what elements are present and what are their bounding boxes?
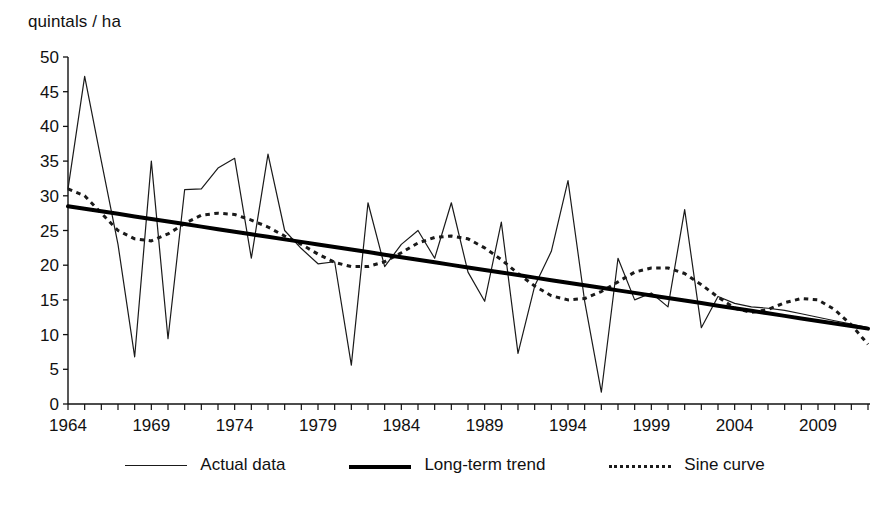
svg-text:1994: 1994 bbox=[549, 416, 587, 435]
svg-text:1999: 1999 bbox=[632, 416, 670, 435]
y-axis-labels: 05101520253035404550 bbox=[40, 48, 59, 414]
legend-swatch-actual-data-icon bbox=[125, 459, 187, 471]
data-series-group bbox=[68, 76, 868, 392]
svg-text:25: 25 bbox=[40, 222, 59, 241]
legend-label-long-term-trend: Long-term trend bbox=[424, 455, 545, 475]
chart-plot-area: 05101520253035404550 1964196919741979198… bbox=[0, 0, 890, 440]
svg-text:2004: 2004 bbox=[716, 416, 754, 435]
svg-text:1964: 1964 bbox=[49, 416, 87, 435]
svg-text:20: 20 bbox=[40, 256, 59, 275]
svg-text:2009: 2009 bbox=[799, 416, 837, 435]
legend-label-actual-data: Actual data bbox=[200, 455, 285, 475]
legend-label-sine-curve: Sine curve bbox=[684, 455, 764, 475]
svg-text:10: 10 bbox=[40, 326, 59, 345]
svg-text:1979: 1979 bbox=[299, 416, 337, 435]
svg-text:45: 45 bbox=[40, 83, 59, 102]
svg-text:30: 30 bbox=[40, 187, 59, 206]
x-axis-labels: 1964196919741979198419891994199920042009 bbox=[49, 416, 837, 435]
legend-swatch-sine-curve-icon bbox=[609, 459, 671, 471]
svg-text:5: 5 bbox=[50, 360, 59, 379]
series-line-long-term-trend bbox=[68, 206, 868, 328]
chart-figure: quintals / ha 05101520253035404550 19641… bbox=[0, 0, 890, 505]
y-axis-ticks bbox=[63, 57, 68, 404]
x-axis-ticks bbox=[68, 404, 868, 410]
svg-text:1969: 1969 bbox=[132, 416, 170, 435]
svg-text:1974: 1974 bbox=[216, 416, 254, 435]
svg-text:0: 0 bbox=[50, 395, 59, 414]
series-line-actual-data bbox=[68, 76, 868, 392]
chart-legend: Actual data Long-term trend Sine curve bbox=[0, 455, 890, 475]
legend-item-long-term-trend: Long-term trend bbox=[349, 455, 545, 475]
svg-text:1989: 1989 bbox=[466, 416, 504, 435]
legend-item-actual-data: Actual data bbox=[125, 455, 285, 475]
svg-text:40: 40 bbox=[40, 117, 59, 136]
svg-text:15: 15 bbox=[40, 291, 59, 310]
legend-swatch-long-term-trend-icon bbox=[349, 459, 411, 471]
svg-text:35: 35 bbox=[40, 152, 59, 171]
svg-text:1984: 1984 bbox=[382, 416, 420, 435]
svg-text:50: 50 bbox=[40, 48, 59, 67]
legend-item-sine-curve: Sine curve bbox=[609, 455, 764, 475]
